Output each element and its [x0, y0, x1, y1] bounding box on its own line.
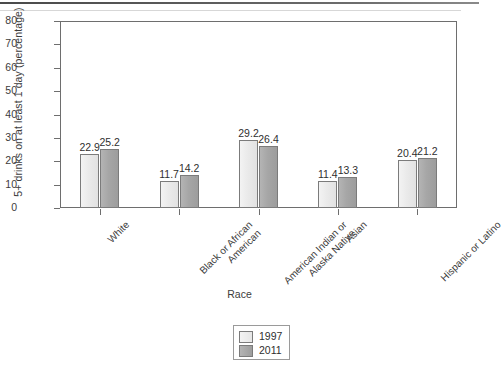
x-tick-mark: [259, 209, 260, 215]
y-tick-label: 30: [0, 131, 17, 143]
scan-artifact-line-secondary: [0, 10, 461, 11]
scan-artifact-line-top: [0, 2, 479, 4]
bar-value-label: 21.2: [412, 145, 443, 157]
bar-value-label: 25.2: [94, 136, 125, 148]
y-tick-label: 0: [0, 201, 17, 213]
bar-2011-2: [259, 146, 278, 208]
legend-label-2011: 2011: [259, 344, 282, 356]
x-category-label: White: [105, 219, 131, 245]
bar-value-label: 26.4: [253, 133, 284, 145]
bar-1997-0: [80, 154, 99, 208]
x-category-label: Black or AfricanAmerican: [197, 219, 262, 284]
x-tick-mark: [179, 209, 180, 215]
bar-value-label: 14.2: [174, 162, 205, 174]
bar-1997-3: [318, 181, 337, 208]
y-tick-label: 20: [0, 154, 17, 166]
x-axis-title: Race: [0, 288, 479, 300]
x-category-label: American Indian orAlaska Native: [281, 219, 357, 295]
y-tick-label: 40: [0, 108, 17, 120]
bar-2011-0: [100, 149, 119, 208]
y-tick-label: 70: [0, 37, 17, 49]
y-tick-mark: [54, 208, 60, 209]
bar-1997-1: [160, 181, 179, 208]
y-tick-label: 10: [0, 178, 17, 190]
y-tick-label: 60: [0, 61, 17, 73]
bar-1997-4: [398, 160, 417, 208]
bar-2011-1: [180, 175, 199, 208]
legend-label-1997: 1997: [259, 330, 282, 342]
x-tick-mark: [338, 209, 339, 215]
bar-2011-4: [418, 158, 437, 208]
legend-swatch-1997: [239, 331, 253, 343]
legend-swatch-2011: [239, 345, 253, 357]
y-tick-label: 80: [0, 14, 17, 26]
x-tick-mark: [417, 209, 418, 215]
x-category-label: Hispanic or Latino: [439, 219, 503, 284]
y-tick-label: 50: [0, 84, 17, 96]
chart-legend: 1997 2011: [233, 325, 290, 360]
bar-value-label: 13.3: [332, 164, 363, 176]
x-category-label: Asian: [343, 219, 369, 245]
bar-2011-3: [338, 177, 357, 208]
x-tick-mark: [100, 209, 101, 215]
bar-1997-2: [239, 140, 258, 208]
